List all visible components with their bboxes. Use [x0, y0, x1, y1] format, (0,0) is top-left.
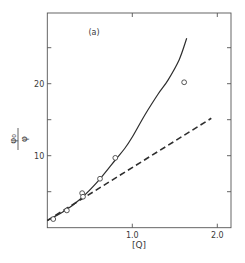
data-point [64, 208, 69, 213]
tick-labels: 1.02.01020 [34, 80, 224, 240]
y-axis-label-denominator: φ [19, 136, 29, 142]
data-point [51, 217, 56, 222]
data-point [182, 80, 187, 85]
data-point [81, 194, 86, 199]
plot-area: 1.02.01020 [34, 13, 231, 240]
y-axis-label-numerator: φ₀ [8, 134, 18, 144]
panel-label: (a) [88, 28, 99, 37]
x-tick-label: 2.0 [211, 231, 224, 240]
y-tick-label: 10 [34, 152, 44, 161]
data-point [113, 155, 118, 160]
y-axis-label: φ₀ φ [8, 128, 29, 150]
data-point [98, 176, 103, 181]
y-tick-label: 20 [34, 80, 44, 89]
solid-fit-curve [47, 38, 186, 220]
data-points [51, 80, 187, 222]
axis-ticks [47, 13, 231, 228]
axes-frame [47, 13, 231, 228]
x-axis-label: [Q] [132, 240, 146, 250]
chart: 1.02.01020 (a) [Q] φ₀ φ [0, 0, 245, 263]
x-tick-label: 1.0 [126, 231, 139, 240]
